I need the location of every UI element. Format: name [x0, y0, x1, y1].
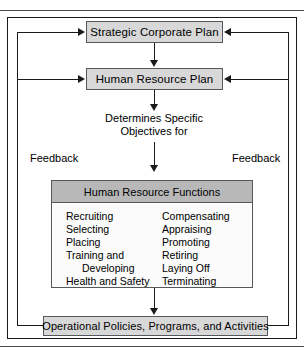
box-strategic-corporate-plan-label: Strategic Corporate Plan — [90, 26, 218, 38]
feedback-left-branch-hrplan — [17, 79, 79, 80]
function-item: Terminating — [162, 275, 230, 288]
function-item: Appraising — [162, 223, 230, 236]
feedback-left-branch-strategic — [17, 32, 79, 33]
box-human-resource-plan: Human Resource Plan — [86, 68, 223, 90]
function-item: Recruiting — [66, 210, 162, 223]
caption-determines-objectives: Determines Specific Objectives for — [80, 112, 228, 138]
feedback-right-source — [268, 325, 289, 326]
feedback-label-right: Feedback — [232, 152, 280, 164]
feedback-right-branch-strategic — [231, 32, 289, 33]
function-item: Placing — [66, 236, 162, 249]
feedback-label-left: Feedback — [30, 152, 78, 164]
connector-strategic-to-hrplan — [154, 43, 155, 61]
functions-list-right: Compensating Appraising Promoting Retiri… — [162, 210, 230, 288]
arrowhead-feedback-right-hrplan — [224, 75, 231, 83]
feedback-right-branch-hrplan — [231, 79, 289, 80]
arrowhead-to-operational — [150, 308, 158, 315]
functions-column-left: Recruiting Selecting Placing Training an… — [52, 210, 162, 288]
functions-column-right: Compensating Appraising Promoting Retiri… — [162, 210, 230, 288]
box-operational-policies: Operational Policies, Programs, and Acti… — [43, 316, 268, 336]
human-resource-functions-header: Human Resource Functions — [52, 181, 252, 203]
hr-planning-flowchart: Strategic Corporate Plan Human Resource … — [0, 0, 304, 358]
function-item: Laying Off — [162, 262, 230, 275]
arrowhead-feedback-left-hrplan — [78, 75, 85, 83]
function-item: Retiring — [162, 249, 230, 262]
feedback-left-source — [17, 325, 43, 326]
function-item: Selecting — [66, 223, 162, 236]
arrowhead-to-hrplan — [150, 60, 158, 67]
box-operational-policies-label: Operational Policies, Programs, and Acti… — [42, 320, 269, 332]
box-human-resource-plan-label: Human Resource Plan — [96, 73, 214, 85]
connector-hrplan-to-caption — [154, 90, 155, 105]
caption-line-1: Determines Specific — [80, 112, 228, 125]
human-resource-functions-panel: Human Resource Functions Recruiting Sele… — [51, 180, 253, 288]
arrowhead-to-functions — [150, 165, 158, 172]
function-item: Compensating — [162, 210, 230, 223]
connector-caption-to-functions — [154, 142, 155, 166]
functions-columns: Recruiting Selecting Placing Training an… — [52, 203, 252, 288]
page-rule-top — [0, 10, 304, 11]
page-rule-bottom — [0, 346, 304, 347]
functions-list-left: Recruiting Selecting Placing Training an… — [66, 210, 162, 288]
function-item: Promoting — [162, 236, 230, 249]
caption-line-2: Objectives for — [80, 125, 228, 138]
function-item: Developing — [66, 262, 162, 275]
arrowhead-feedback-left-strategic — [78, 28, 85, 36]
arrowhead-feedback-right-strategic — [224, 28, 231, 36]
box-strategic-corporate-plan: Strategic Corporate Plan — [86, 21, 223, 43]
arrowhead-to-caption — [150, 104, 158, 111]
feedback-right-trunk — [288, 32, 289, 326]
connector-functions-to-operational — [154, 288, 155, 309]
feedback-left-trunk — [17, 32, 18, 326]
function-item: Health and Safety — [66, 275, 162, 288]
function-item: Training and — [66, 249, 162, 262]
